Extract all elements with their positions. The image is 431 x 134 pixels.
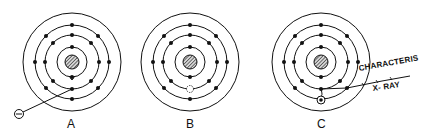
nucleus bbox=[183, 55, 197, 69]
incident-electron-path bbox=[23, 76, 75, 112]
atom-b bbox=[141, 13, 239, 111]
incident-electron-icon bbox=[15, 110, 24, 119]
panel-label-b: B bbox=[186, 117, 194, 131]
panel-label-a: A bbox=[67, 117, 75, 131]
atom-a bbox=[23, 13, 121, 111]
vacancy-icon bbox=[187, 86, 194, 93]
transition-electron-icon bbox=[317, 96, 325, 104]
panel-label-c: C bbox=[317, 117, 326, 131]
nucleus bbox=[65, 55, 79, 69]
nucleus bbox=[314, 55, 328, 69]
